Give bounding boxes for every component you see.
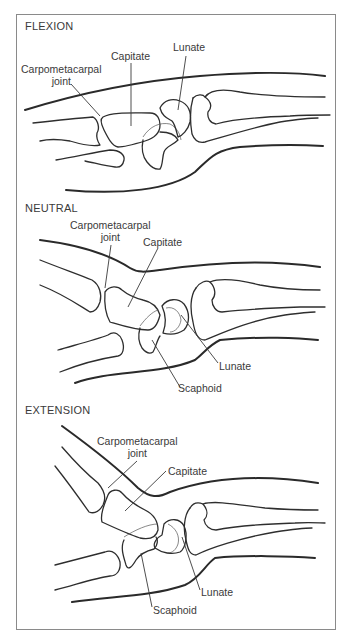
label-lunate: Lunate xyxy=(219,360,251,372)
metacarpal-bone xyxy=(56,150,124,167)
panel-extension xyxy=(55,426,325,602)
radius-bone xyxy=(193,90,325,98)
label-lunate: Lunate xyxy=(173,41,205,53)
label-scaphoid: Scaphoid xyxy=(178,382,222,394)
capitate-bone xyxy=(101,490,158,539)
label-line: joint xyxy=(70,231,151,243)
panel-flexion xyxy=(25,73,330,192)
panel-title-flexion: FLEXION xyxy=(25,20,73,32)
scaphoid-bone xyxy=(122,537,157,568)
label-carpometacarpal-joint: Carpometacarpal joint xyxy=(70,219,151,243)
scaphoid-bone xyxy=(142,132,178,169)
metacarpal-bone xyxy=(40,260,101,312)
label-lunate: Lunate xyxy=(201,586,233,598)
label-line: Carpometacarpal xyxy=(97,435,178,447)
label-line: Carpometacarpal xyxy=(70,219,151,231)
lunate-bone xyxy=(162,300,189,334)
panel-title-extension: EXTENSION xyxy=(25,404,90,416)
label-line: Carpometacarpal xyxy=(21,63,102,75)
panel-neutral xyxy=(40,240,325,383)
wrist-diagram xyxy=(0,0,348,636)
metacarpal-bone xyxy=(58,333,123,372)
label-carpometacarpal-joint: Carpometacarpal joint xyxy=(21,63,102,87)
label-line: joint xyxy=(97,447,178,459)
palmar-skin-outline xyxy=(66,145,323,192)
palmar-skin-outline xyxy=(75,338,318,383)
metacarpal-bone xyxy=(33,117,100,146)
label-scaphoid: Scaphoid xyxy=(153,604,197,616)
panel-title-neutral: NEUTRAL xyxy=(25,202,78,214)
label-carpometacarpal-joint: Carpometacarpal joint xyxy=(97,435,178,459)
lunate-bone xyxy=(154,520,186,554)
lunate-bone xyxy=(160,100,191,137)
label-line: joint xyxy=(21,75,102,87)
label-capitate: Capitate xyxy=(111,50,150,62)
label-capitate: Capitate xyxy=(143,236,182,248)
metacarpal-bone xyxy=(55,551,120,590)
label-capitate: Capitate xyxy=(168,465,207,477)
palmar-skin-outline xyxy=(72,556,315,602)
neutral-leaders xyxy=(105,245,218,387)
radius-bone xyxy=(190,503,318,510)
capitate-bone xyxy=(105,287,160,330)
scaphoid-bone xyxy=(139,328,160,353)
